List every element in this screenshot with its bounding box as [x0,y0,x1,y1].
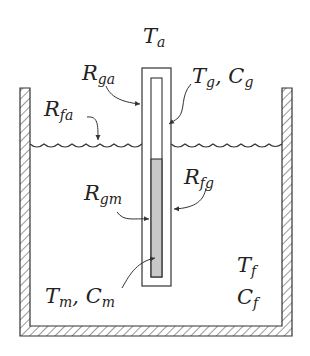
label-r-fg: Rfg [183,165,214,191]
label-fluid-temperature: Tf [237,253,259,279]
r-ga-leader-arrow [106,86,140,104]
label-r-fa: Rfa [43,97,73,123]
tg-cg-leader-arrow [169,84,191,124]
label-glass-temp-capacity: Tg, Cg [192,64,253,90]
r-fg-leader-arrow [174,188,206,209]
label-ambient-temperature: Ta [143,24,165,50]
label-mercury-temp-capacity: Tm, Cm [45,284,115,310]
r-fa-leader-arrow [87,117,98,140]
fluid-surface-right [171,144,282,147]
label-fluid-capacity: Cf [237,285,261,311]
label-r-gm: Rgm [83,181,122,207]
fluid-surface-left [30,144,152,147]
label-r-ga: Rga [81,61,115,87]
thermal-model-diagram: Ta Rga Tg, Cg Rfa Rgm Rfg Tm, Cm Tf Cf [0,0,310,356]
